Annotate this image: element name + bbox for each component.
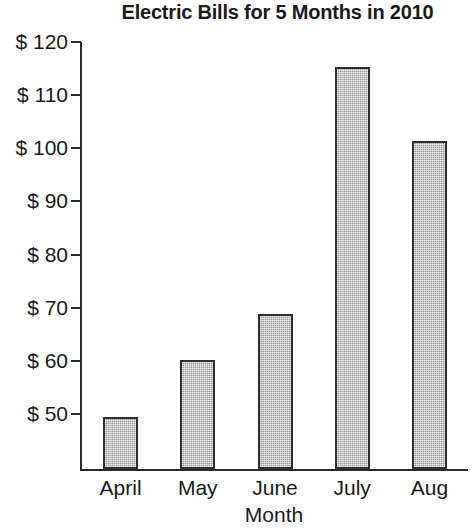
x-axis-line xyxy=(80,469,468,471)
bar-july xyxy=(335,67,370,469)
y-axis-tick-mark xyxy=(71,200,81,202)
y-axis-tick-mark xyxy=(71,147,81,149)
y-axis-tick-mark xyxy=(71,360,81,362)
y-axis-tick-label-text: $ 70 xyxy=(2,297,68,318)
x-axis-title: Month xyxy=(80,503,468,527)
x-axis-tick-label-may: May xyxy=(159,476,236,500)
bar-chart: Electric Bills for 5 Months in 2010 $ 12… xyxy=(0,0,475,532)
y-axis-tick-label: $ 120 xyxy=(0,31,68,52)
bar-may xyxy=(180,360,215,469)
y-axis-tick-mark xyxy=(71,254,81,256)
bar-june xyxy=(258,314,293,469)
y-axis-tick-label-text: $ 110 xyxy=(2,84,68,105)
y-axis-tick-label: $ 110 xyxy=(0,84,68,105)
x-axis-tick-label-april: April xyxy=(82,476,159,500)
y-axis-tick-label-text: $ 90 xyxy=(2,190,68,211)
y-axis-tick-mark xyxy=(71,413,81,415)
y-axis-tick-label: $ 60 xyxy=(0,350,68,371)
y-axis-tick-mark xyxy=(71,41,81,43)
y-axis-tick-label: $ 80 xyxy=(0,244,68,265)
y-axis-tick-label: $ 50 xyxy=(0,403,68,424)
x-axis-tick-label-june: June xyxy=(236,476,313,500)
x-axis-tick-label-aug: Aug xyxy=(391,476,468,500)
y-axis-tick-label: $ 100 xyxy=(0,137,68,158)
y-axis-line xyxy=(80,42,82,471)
bar-aug xyxy=(412,141,447,469)
y-axis-tick-label-text: $ 50 xyxy=(2,403,68,424)
y-axis-tick-label-text: $ 80 xyxy=(2,244,68,265)
x-axis-tick-label-july: July xyxy=(314,476,391,500)
y-axis-tick-label-text: $ 120 xyxy=(2,31,68,52)
bar-april xyxy=(103,417,138,469)
y-axis-tick-label-text: $ 60 xyxy=(2,350,68,371)
y-axis-tick-label-text: $ 100 xyxy=(2,137,68,158)
y-axis-tick-label: $ 70 xyxy=(0,297,68,318)
y-axis-tick-mark xyxy=(71,307,81,309)
plot-area: $ 120$ 110$ 100$ 90$ 80$ 70$ 60$ 50 Apri… xyxy=(0,0,475,532)
y-axis-tick-label: $ 90 xyxy=(0,190,68,211)
y-axis-tick-mark xyxy=(71,94,81,96)
